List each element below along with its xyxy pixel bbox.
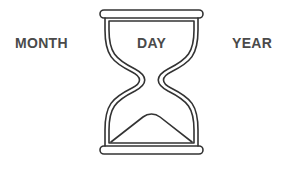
day-label: DAY	[137, 36, 166, 50]
hourglass-icon	[0, 0, 287, 169]
date-hourglass-graphic: MONTH DAY YEAR	[0, 0, 287, 169]
year-label: YEAR	[232, 36, 272, 50]
month-label: MONTH	[15, 36, 68, 50]
